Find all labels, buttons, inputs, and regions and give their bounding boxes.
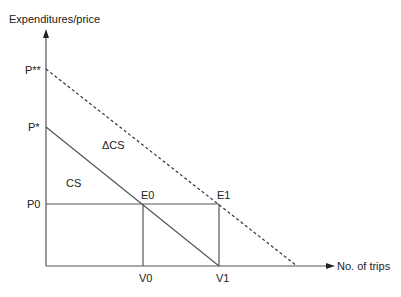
quantity-label-v1: V1 (216, 272, 229, 284)
y-axis-arrow-icon (43, 29, 49, 38)
quantity-label-v0: V0 (139, 272, 152, 284)
original-demand-line (46, 127, 219, 266)
region-label-delta-cs: ΔCS (102, 139, 125, 151)
diagram-canvas (0, 0, 401, 297)
y-axis-label: Expenditures/price (9, 13, 100, 25)
shifted-demand-line (46, 69, 297, 266)
x-axis-label: No. of trips (337, 260, 390, 272)
point-label-e0: E0 (141, 189, 154, 201)
x-axis-arrow-icon (326, 263, 335, 269)
region-label-cs: CS (66, 177, 81, 189)
price-label-p-star: P* (28, 121, 40, 133)
point-label-e1: E1 (217, 189, 230, 201)
price-label-p0: P0 (27, 198, 40, 210)
price-label-p-double-star: P** (25, 64, 41, 76)
